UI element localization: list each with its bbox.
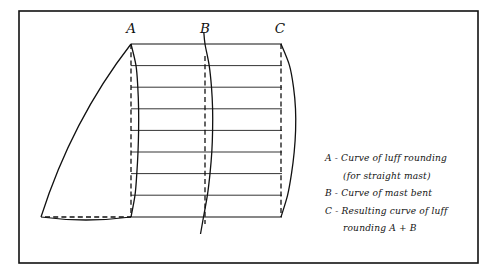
legend-line-2: B - Curve of mast bent xyxy=(324,188,432,198)
figure-root: ABC A - Curve of luff rounding(for strai… xyxy=(0,0,495,277)
legend-line-3: C - Resulting curve of luff xyxy=(325,206,449,216)
station-label-c: C xyxy=(275,20,286,36)
legend-line-4: rounding A + B xyxy=(343,223,417,233)
station-label-b: B xyxy=(199,20,210,36)
legend-line-0: A - Curve of luff rounding xyxy=(324,153,447,163)
legend-line-1: (for straight mast) xyxy=(343,171,431,181)
figure-background xyxy=(0,0,495,277)
sail-diagram: ABC A - Curve of luff rounding(for strai… xyxy=(0,0,495,277)
station-label-a: A xyxy=(124,20,136,36)
